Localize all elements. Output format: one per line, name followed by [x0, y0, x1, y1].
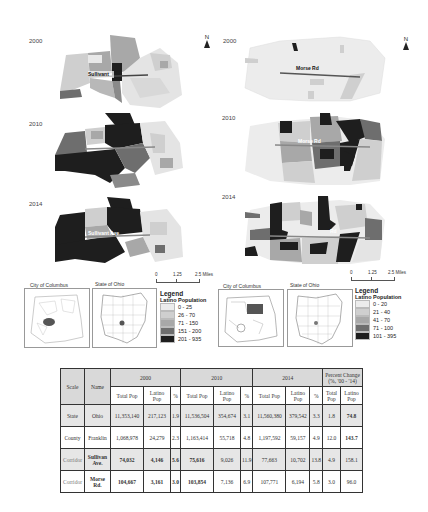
table-row: CountyFranklin 1,068,97824,2792.3 1,163,…	[61, 427, 363, 449]
legend-item: 26 - 70	[160, 311, 206, 319]
legend-item: 151 - 200	[160, 327, 206, 335]
legend-item: 21 - 40	[355, 308, 401, 316]
legend-item: 71 - 150	[160, 319, 206, 327]
legend: Legend Latino Population 0 - 25 26 - 70 …	[160, 290, 206, 343]
inset-title-state: State of Ohio	[290, 282, 319, 288]
header-latino-pop: Latino Pop	[341, 387, 363, 405]
header-2014: 2014	[253, 369, 323, 387]
map-year-label: 2000	[29, 38, 42, 44]
map-year-label: 2010	[29, 121, 42, 127]
header-pct: %	[241, 387, 253, 405]
left-map-2010	[55, 113, 185, 193]
inset-map-state-of-ohio	[287, 289, 353, 347]
header-percent-change: Percent Change(%, '00 - '14)	[323, 369, 363, 387]
inset-title-state: State of Ohio	[95, 281, 124, 287]
right-map-2010: Morse Rd	[240, 111, 390, 187]
header-total-pop: Total Pop	[111, 387, 144, 405]
map-year-label: 2014	[29, 201, 42, 207]
map-year-label: 2010	[222, 115, 235, 121]
road-label: Rd	[330, 228, 337, 234]
legend-title: Legend	[355, 287, 401, 294]
header-latino-pop: Latino Pop	[214, 387, 241, 405]
north-arrow-icon: N	[204, 34, 210, 48]
header-latino-pop: Latino Pop	[286, 387, 310, 405]
header-scale: Scale	[61, 369, 85, 405]
inset-map-city-of-columbus	[218, 289, 284, 347]
legend-item: 101 - 395	[355, 332, 401, 340]
scale-bar: 0 1.25 2.5 Miles	[351, 270, 401, 282]
north-arrow-icon: N	[403, 36, 409, 50]
header-total-pop: Total Pop	[253, 387, 286, 405]
inset-map-city-of-columbus	[24, 288, 90, 348]
header-2000: 2000	[111, 369, 181, 387]
scale-bar: 0 1.25 2.5 Miles	[156, 272, 201, 284]
legend-item: 0 - 25	[160, 303, 206, 311]
legend-item: 71 - 100	[355, 324, 401, 332]
map-year-label: 2014	[222, 194, 235, 200]
header-2010: 2010	[181, 369, 253, 387]
left-map-2000: Sullivant	[60, 33, 185, 113]
header-name: Name	[85, 369, 111, 405]
legend-title: Legend	[160, 290, 206, 297]
legend-item: 0 - 20	[355, 300, 401, 308]
legend-item: 41 - 70	[355, 316, 401, 324]
header-pct: %	[171, 387, 181, 405]
road-label: Morse Rd	[298, 138, 321, 144]
table-row: StateOhio 11,353,140217,1231.9 11,536,50…	[61, 405, 363, 427]
left-map-2014: Sullivant Ave	[55, 197, 185, 265]
road-label: Morse Rd	[296, 65, 319, 71]
inset-map-state-of-ohio	[92, 288, 157, 348]
road-label: Sullivant Ave	[88, 230, 119, 236]
road-label: Sullivant	[88, 71, 109, 77]
table-row: CorridorMorse Rd. 104,6673,1613.0 103,85…	[61, 471, 363, 493]
header-latino-pop: Latino Pop	[144, 387, 171, 405]
right-map-2000: Morse Rd	[240, 33, 390, 105]
legend-item: 201 - 935	[160, 335, 206, 343]
header-total-pop: Total Pop	[323, 387, 341, 405]
table-row: CorridorSullivan Ave. 74,0324,1465.6 75,…	[61, 449, 363, 471]
header-total-pop: Total Pop	[181, 387, 214, 405]
legend: Legend Latino Population 0 - 20 21 - 40 …	[355, 287, 401, 340]
right-map-2014: Rd	[240, 190, 390, 266]
map-year-label: 2000	[223, 38, 236, 44]
population-table: Scale Name 2000 2010 2014 Percent Change…	[60, 368, 363, 493]
header-pct: %	[310, 387, 323, 405]
